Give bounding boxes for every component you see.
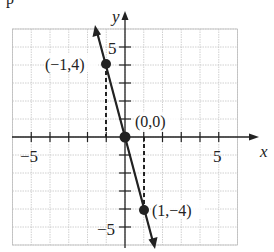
line-arrow-top-icon [93,25,102,37]
x-tick-label-neg5: −5 [20,147,38,166]
x-axis [12,134,259,141]
point-label-1-neg4: (1,−4) [152,202,192,220]
point-label-origin: (0,0) [135,113,166,131]
point-1-neg4 [139,205,149,215]
cropped-header-fragment: p [6,0,14,8]
point-origin [120,132,131,143]
y-axis-arrow-icon [122,11,129,20]
x-axis-label: x [259,142,268,161]
y-axis-label: y [110,7,120,26]
y-tick-label-pos5: 5 [108,39,117,58]
point-neg1-4 [101,59,111,69]
line-arrow-bottom-icon [149,237,158,249]
x-axis-arrow-icon [249,134,259,141]
coordinate-plane: p x y −5 5 5 −5 (−1,4) (0,0) (1,−4) [0,0,274,252]
svg-text:p: p [6,0,14,8]
point-label-neg1-4: (−1,4) [45,56,85,74]
y-tick-label-neg5: −5 [97,220,115,239]
x-tick-label-pos5: 5 [213,147,222,166]
